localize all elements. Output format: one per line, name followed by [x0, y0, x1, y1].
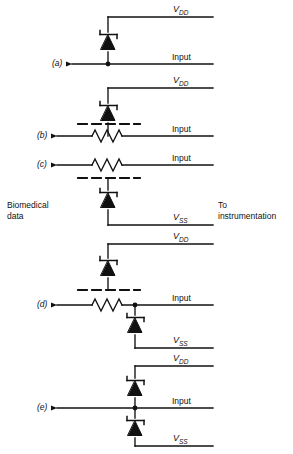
- panel-e-vss-label: VSS: [173, 433, 188, 447]
- panel-a-junction-dot: [106, 62, 111, 67]
- panel-d-vdd-label: VDD: [173, 231, 188, 245]
- vss-subscript: SS: [179, 340, 188, 347]
- vdd-subscript: DD: [179, 236, 188, 243]
- panel-d-series-resistor: [92, 299, 122, 311]
- panel-d-vss-label: VSS: [173, 335, 188, 349]
- vss-subscript: SS: [179, 217, 188, 224]
- circuit-diagram-figure: (a) (b) (c) (d) (e) VDD VDD VDD VDD VSS …: [0, 0, 293, 454]
- panel-a-zener-diode: [100, 31, 117, 50]
- panel-d-input-label: Input: [172, 293, 191, 303]
- panel-e-input-label: Input: [172, 396, 191, 406]
- to-instrumentation-label: To instrumentation: [218, 200, 276, 222]
- vdd-subscript: DD: [179, 358, 188, 365]
- panel-letter-b: (b): [37, 130, 47, 140]
- panel-c-input-label: Input: [172, 153, 191, 163]
- panel-b-series-resistor: [92, 130, 122, 142]
- panel-b-vdd-label: VDD: [173, 75, 188, 89]
- panel-letter-c: (c): [37, 159, 47, 169]
- panel-letter-a: (a): [52, 58, 62, 68]
- panel-e-vdd-label: VDD: [173, 353, 188, 367]
- panel-e-lower-zener-diode: [127, 417, 144, 436]
- panel-c-circuit: [57, 159, 213, 225]
- panel-a-input-label: Input: [172, 52, 191, 62]
- panel-d-lower-zener-diode: [127, 314, 144, 333]
- panel-c-series-resistor: [92, 159, 122, 171]
- panel-a-vdd-label: VDD: [173, 4, 188, 18]
- panel-d-upper-zener-diode: [100, 257, 117, 276]
- panel-c-vss-label: VSS: [173, 212, 188, 226]
- panel-c-zener-diode: [100, 189, 117, 208]
- biomedical-data-label: Biomedical data: [7, 200, 49, 222]
- panel-a-circuit: [72, 17, 213, 64]
- panel-letter-d: (d): [37, 299, 47, 309]
- vdd-subscript: DD: [179, 9, 188, 16]
- circuit-schematic-canvas: [0, 0, 293, 454]
- panel-d-junction-dot: [133, 303, 138, 308]
- panel-letter-e: (e): [37, 402, 47, 412]
- panel-e-junction-dot: [133, 406, 138, 411]
- vss-subscript: SS: [179, 438, 188, 445]
- panel-b-zener-diode: [100, 102, 117, 121]
- panel-e-upper-zener-diode: [127, 377, 144, 396]
- vdd-subscript: DD: [179, 80, 188, 87]
- panel-b-input-label: Input: [172, 124, 191, 134]
